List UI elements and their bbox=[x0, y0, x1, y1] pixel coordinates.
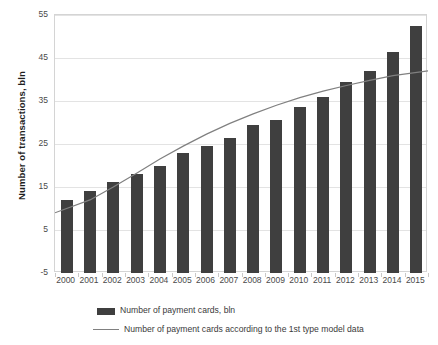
y-axis-tick-label: 35 bbox=[10, 95, 48, 105]
legend-label-bars: Number of payment cards, bln bbox=[120, 305, 235, 315]
legend-item-bars: Number of payment cards, bln bbox=[0, 300, 438, 319]
chart-legend: Number of payment cards, bln Number of p… bbox=[0, 300, 438, 338]
y-axis-tick-label: 25 bbox=[10, 138, 48, 148]
legend-line-icon bbox=[93, 320, 119, 338]
legend-swatch-icon bbox=[97, 301, 115, 319]
y-axis-tick-label: 45 bbox=[10, 52, 48, 62]
trend-line-series bbox=[55, 15, 428, 273]
x-axis-tick-label: 2015 bbox=[398, 275, 432, 285]
y-axis-tick-label: 5 bbox=[10, 224, 48, 234]
chart-container: Number of transactions, bln 55453525155-… bbox=[0, 0, 438, 345]
y-axis-tick-label: -5 bbox=[10, 267, 48, 277]
trend-line bbox=[55, 71, 428, 213]
legend-item-line: Number of payment cards according to the… bbox=[0, 319, 438, 338]
legend-label-line: Number of payment cards according to the… bbox=[124, 324, 364, 334]
y-axis-tick-label: 55 bbox=[10, 9, 48, 19]
x-axis-labels: 2000200120022003200420052006200720082009… bbox=[54, 275, 427, 291]
y-axis-tick-label: 15 bbox=[10, 181, 48, 191]
plot-area bbox=[54, 14, 427, 272]
